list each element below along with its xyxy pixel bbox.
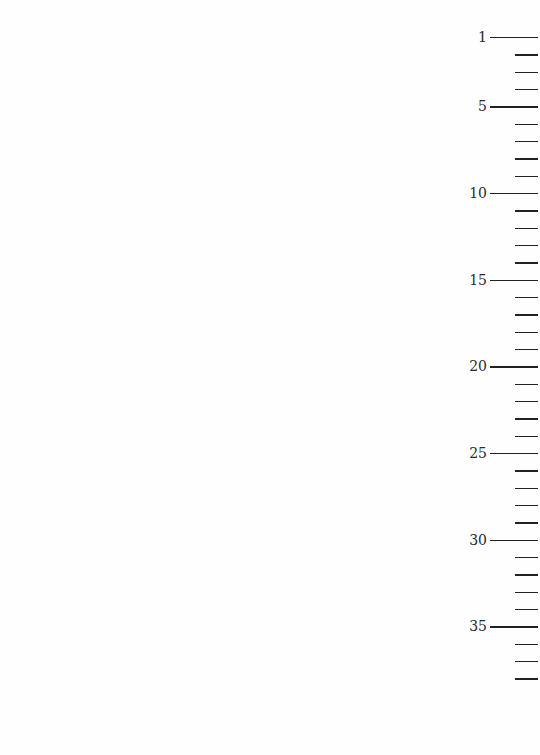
tick-mark — [515, 89, 538, 90]
tick-mark — [490, 366, 538, 367]
line-marker-7 — [440, 141, 540, 155]
document-page: 15101520253035 — [0, 0, 540, 755]
line-marker-5: 5 — [440, 106, 540, 120]
line-marker-22 — [440, 401, 540, 415]
tick-mark — [515, 418, 538, 419]
line-marker-28 — [440, 505, 540, 519]
tick-mark — [515, 297, 538, 298]
line-marker-10: 10 — [440, 193, 540, 207]
tick-mark — [515, 644, 538, 645]
line-marker-26 — [440, 470, 540, 484]
tick-mark — [490, 540, 538, 541]
line-marker-21 — [440, 384, 540, 398]
line-marker-6 — [440, 124, 540, 138]
tick-mark — [515, 384, 538, 385]
line-marker-36 — [440, 644, 540, 658]
line-marker-17 — [440, 314, 540, 328]
line-marker-38 — [440, 678, 540, 692]
line-marker-14 — [440, 262, 540, 276]
line-number-label: 5 — [478, 98, 487, 114]
line-marker-19 — [440, 349, 540, 363]
tick-mark — [515, 609, 538, 610]
tick-mark — [515, 401, 538, 402]
tick-mark — [515, 332, 538, 333]
tick-mark — [515, 262, 538, 263]
line-marker-12 — [440, 228, 540, 242]
line-marker-3 — [440, 72, 540, 86]
tick-mark — [515, 314, 538, 315]
line-marker-11 — [440, 210, 540, 224]
tick-mark — [515, 574, 538, 575]
tick-mark — [515, 141, 538, 142]
line-marker-8 — [440, 158, 540, 172]
tick-mark — [515, 210, 538, 211]
line-number-label: 25 — [469, 445, 487, 461]
tick-mark — [515, 470, 538, 471]
line-marker-23 — [440, 418, 540, 432]
line-marker-2 — [440, 54, 540, 68]
line-marker-20: 20 — [440, 366, 540, 380]
tick-mark — [490, 453, 538, 454]
tick-mark — [515, 176, 538, 177]
tick-mark — [515, 349, 538, 350]
line-marker-35: 35 — [440, 626, 540, 640]
line-marker-34 — [440, 609, 540, 623]
tick-mark — [515, 72, 538, 73]
line-marker-9 — [440, 176, 540, 190]
line-number-label: 35 — [469, 618, 487, 634]
tick-mark — [515, 436, 538, 437]
line-number-label: 30 — [469, 532, 487, 548]
tick-mark — [515, 522, 538, 523]
line-marker-31 — [440, 557, 540, 571]
tick-mark — [515, 488, 538, 489]
line-marker-27 — [440, 488, 540, 502]
line-marker-18 — [440, 332, 540, 346]
tick-mark — [490, 193, 538, 194]
line-number-label: 10 — [469, 185, 487, 201]
line-marker-32 — [440, 574, 540, 588]
tick-mark — [515, 228, 538, 229]
tick-mark — [515, 505, 538, 506]
tick-mark — [490, 106, 538, 107]
tick-mark — [515, 678, 538, 679]
line-number-label: 1 — [478, 29, 487, 45]
tick-mark — [490, 626, 538, 627]
line-marker-25: 25 — [440, 453, 540, 467]
tick-mark — [515, 124, 538, 125]
line-number-gutter: 15101520253035 — [440, 0, 540, 755]
tick-mark — [515, 158, 538, 159]
line-marker-33 — [440, 592, 540, 606]
tick-mark — [515, 661, 538, 662]
line-marker-1: 1 — [440, 37, 540, 51]
line-marker-37 — [440, 661, 540, 675]
tick-mark — [490, 280, 538, 281]
tick-mark — [515, 245, 538, 246]
line-number-label: 15 — [469, 272, 487, 288]
line-marker-4 — [440, 89, 540, 103]
line-marker-13 — [440, 245, 540, 259]
line-marker-30: 30 — [440, 540, 540, 554]
line-marker-15: 15 — [440, 280, 540, 294]
line-number-label: 20 — [469, 358, 487, 374]
tick-mark — [490, 37, 538, 38]
tick-mark — [515, 54, 538, 55]
tick-mark — [515, 557, 538, 558]
tick-mark — [515, 592, 538, 593]
line-marker-24 — [440, 436, 540, 450]
line-marker-16 — [440, 297, 540, 311]
line-marker-29 — [440, 522, 540, 536]
